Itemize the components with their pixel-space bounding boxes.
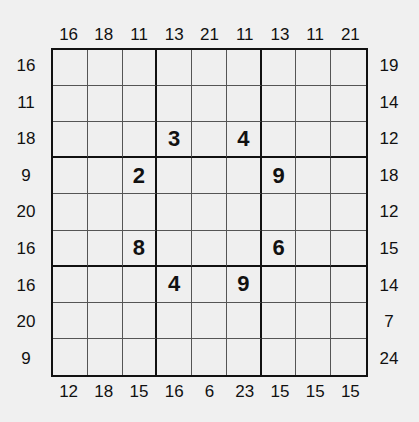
grid-cell[interactable] xyxy=(331,122,366,158)
grid-cell[interactable]: 9 xyxy=(227,267,262,303)
grid-cell[interactable] xyxy=(296,50,331,86)
bottom-clue: 23 xyxy=(227,382,262,402)
grid-cell[interactable] xyxy=(53,267,88,303)
top-clue: 21 xyxy=(192,25,227,45)
grid-cell[interactable] xyxy=(331,303,366,339)
grid-cell[interactable] xyxy=(88,86,123,122)
grid-cell[interactable] xyxy=(157,339,192,375)
grid-cell[interactable] xyxy=(192,267,227,303)
grid-cell[interactable]: 4 xyxy=(227,122,262,158)
bottom-clue: 15 xyxy=(262,382,297,402)
grid-cell[interactable] xyxy=(192,339,227,375)
left-clue: 16 xyxy=(6,267,46,304)
grid-cell[interactable] xyxy=(53,50,88,86)
grid-cell[interactable] xyxy=(227,339,262,375)
grid-cell[interactable] xyxy=(192,303,227,339)
grid-cell[interactable] xyxy=(262,303,297,339)
grid-cell[interactable] xyxy=(262,50,297,86)
grid-cell[interactable] xyxy=(157,194,192,230)
grid-cell[interactable] xyxy=(88,122,123,158)
top-clue: 21 xyxy=(333,25,368,45)
grid-cell[interactable] xyxy=(53,231,88,267)
grid-cell[interactable] xyxy=(227,50,262,86)
grid-cell[interactable] xyxy=(296,194,331,230)
grid-cell[interactable]: 9 xyxy=(262,158,297,194)
grid-cell[interactable] xyxy=(192,158,227,194)
grid-cell[interactable] xyxy=(296,231,331,267)
grid-cell[interactable] xyxy=(227,86,262,122)
grid-cell[interactable] xyxy=(53,194,88,230)
grid-cell[interactable]: 6 xyxy=(262,231,297,267)
grid-cell[interactable] xyxy=(331,267,366,303)
grid-cell[interactable] xyxy=(296,158,331,194)
grid-cell[interactable] xyxy=(227,158,262,194)
grid-cell[interactable] xyxy=(123,303,158,339)
grid-cell[interactable] xyxy=(192,194,227,230)
grid-cell[interactable]: 3 xyxy=(157,122,192,158)
grid-cell[interactable] xyxy=(262,122,297,158)
grid-cell[interactable] xyxy=(192,231,227,267)
grid-cell[interactable] xyxy=(53,303,88,339)
grid-cell[interactable] xyxy=(296,303,331,339)
grid-cell[interactable]: 8 xyxy=(123,231,158,267)
grid-cell[interactable] xyxy=(262,339,297,375)
grid-cell[interactable] xyxy=(88,50,123,86)
left-clue: 20 xyxy=(6,304,46,341)
grid-cell[interactable] xyxy=(192,50,227,86)
grid-cell[interactable] xyxy=(157,231,192,267)
grid-cell[interactable] xyxy=(157,158,192,194)
grid-cell[interactable] xyxy=(227,231,262,267)
grid-cell[interactable] xyxy=(157,303,192,339)
bottom-clue: 18 xyxy=(86,382,121,402)
grid-cell[interactable] xyxy=(192,86,227,122)
left-clues: 1611189201616209 xyxy=(6,48,46,377)
grid-cell[interactable]: 2 xyxy=(123,158,158,194)
grid-cell[interactable] xyxy=(331,86,366,122)
right-clue: 12 xyxy=(369,121,409,158)
grid-cell[interactable] xyxy=(331,339,366,375)
grid-cell[interactable] xyxy=(262,86,297,122)
grid-cell[interactable] xyxy=(331,158,366,194)
grid-cell[interactable] xyxy=(53,86,88,122)
grid-cell[interactable] xyxy=(53,339,88,375)
grid-cell[interactable] xyxy=(88,267,123,303)
grid-cell[interactable] xyxy=(157,86,192,122)
grid-cell[interactable] xyxy=(123,194,158,230)
right-clue: 15 xyxy=(369,231,409,268)
grid-cell[interactable] xyxy=(227,194,262,230)
top-clue: 11 xyxy=(298,25,333,45)
grid-cell[interactable] xyxy=(53,158,88,194)
grid-cell[interactable] xyxy=(123,122,158,158)
grid-cell[interactable]: 4 xyxy=(157,267,192,303)
grid-cell[interactable] xyxy=(88,231,123,267)
top-clues: 161811132111131121 xyxy=(51,25,368,45)
grid-cell[interactable] xyxy=(123,267,158,303)
grid-cell[interactable] xyxy=(331,50,366,86)
grid-cell[interactable] xyxy=(262,267,297,303)
right-clue: 14 xyxy=(369,85,409,122)
grid-cell[interactable] xyxy=(192,122,227,158)
grid-cell[interactable] xyxy=(53,122,88,158)
grid-cell[interactable] xyxy=(296,267,331,303)
top-clue: 13 xyxy=(262,25,297,45)
grid-cell[interactable] xyxy=(88,158,123,194)
grid-cell[interactable] xyxy=(296,86,331,122)
right-clue: 19 xyxy=(369,48,409,85)
top-clue: 16 xyxy=(51,25,86,45)
grid-cell[interactable] xyxy=(262,194,297,230)
right-clues: 19141218121514724 xyxy=(369,48,409,377)
grid-cell[interactable] xyxy=(157,50,192,86)
grid-cell[interactable] xyxy=(88,339,123,375)
grid-cell[interactable] xyxy=(296,122,331,158)
grid-cell[interactable] xyxy=(123,339,158,375)
grid-cell[interactable] xyxy=(88,194,123,230)
bottom-clues: 12181516623151515 xyxy=(51,382,368,402)
grid-cell[interactable] xyxy=(123,86,158,122)
grid-cell[interactable] xyxy=(227,303,262,339)
left-clue: 18 xyxy=(6,121,46,158)
grid-cell[interactable] xyxy=(296,339,331,375)
grid-cell[interactable] xyxy=(331,194,366,230)
grid-cell[interactable] xyxy=(123,50,158,86)
grid-cell[interactable] xyxy=(331,231,366,267)
grid-cell[interactable] xyxy=(88,303,123,339)
